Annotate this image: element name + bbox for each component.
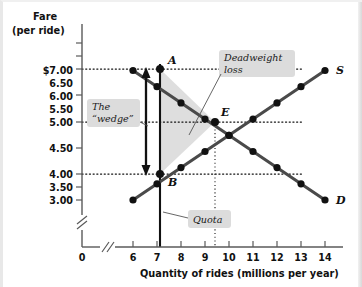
y-tick-label-650: 6.50 <box>49 78 73 89</box>
x-tick-label-6: 6 <box>130 252 137 263</box>
y-axis-tick-labels: $7.00 6.50 6.00 5.50 5.00 4.50 4.00 3.50… <box>43 65 74 206</box>
y-axis-break-icon <box>77 216 87 229</box>
point-e-label: E <box>220 106 230 119</box>
origin-label: 0 <box>79 252 86 263</box>
figure-panel: D S A E B The <box>0 0 362 287</box>
x-tick-label-9: 9 <box>202 252 209 263</box>
supply-curve-label: S <box>336 64 344 77</box>
demand-curve-label: D <box>335 194 346 207</box>
x-tick-label-8: 8 <box>178 252 185 263</box>
y-tick-label-500: 5.00 <box>49 117 73 128</box>
y-tick-label-600: 6.00 <box>49 91 73 102</box>
y-axis-ticks <box>76 43 82 200</box>
y-tick-label-700: $7.00 <box>43 65 74 76</box>
point-a-label: A <box>167 54 177 67</box>
point-e-marker[interactable] <box>211 118 219 126</box>
x-tick-label-12: 12 <box>270 252 283 263</box>
wedge-callout-line2: “wedge” <box>92 113 134 124</box>
x-axis-title: Quantity of rides (millions per year) <box>140 268 339 279</box>
deadweight-callout-line2: loss <box>224 64 243 75</box>
y-tick-label-350: 3.50 <box>49 182 73 193</box>
supply-demand-quota-chart: D S A E B The <box>3 2 362 287</box>
wedge-callout-line1: The <box>92 101 111 112</box>
deadweight-callout-line1: Deadweight <box>223 52 283 63</box>
y-tick-label-400: 4.00 <box>49 169 73 180</box>
x-tick-label-7: 7 <box>154 252 161 263</box>
wedge-callout: The “wedge” <box>87 99 148 127</box>
x-tick-label-10: 10 <box>222 252 236 263</box>
x-axis-tick-labels: 6 7 8 9 10 11 12 13 14 0 <box>79 252 332 263</box>
y-axis-title-line1: Fare <box>33 11 58 22</box>
y-tick-label-300: 3.00 <box>49 195 73 206</box>
point-b-label: B <box>167 176 177 189</box>
y-tick-label-450: 4.50 <box>49 143 73 154</box>
x-tick-label-14: 14 <box>318 252 332 263</box>
x-tick-label-13: 13 <box>294 252 307 263</box>
x-axis-break-icon <box>102 242 114 252</box>
quota-callout: Quota <box>163 210 231 228</box>
point-b-marker[interactable] <box>156 170 164 178</box>
x-axis-ticks <box>133 241 325 247</box>
y-tick-label-550: 5.50 <box>49 104 73 115</box>
quota-callout-label: Quota <box>193 214 223 225</box>
y-axis-title-line2: (per ride) <box>12 25 65 36</box>
point-a-marker[interactable] <box>156 65 164 73</box>
x-tick-label-11: 11 <box>246 252 260 263</box>
